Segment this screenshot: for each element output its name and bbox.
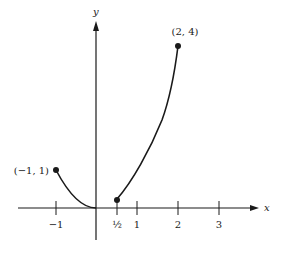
tick-label: ½: [112, 219, 122, 230]
annotation-right-point: (2, 4): [172, 26, 199, 37]
y-axis-arrow-icon: [93, 21, 99, 31]
x-axis-arrow-icon: [250, 205, 259, 211]
tick-label: −1: [49, 219, 64, 230]
tick-label: 3: [216, 219, 222, 230]
y-axis-label: y: [92, 6, 99, 17]
point-half-endpoint: [114, 197, 120, 203]
curve-left-branch: [56, 170, 96, 208]
tick-label: 2: [175, 219, 181, 230]
plot: −1 ½ 1 2 3 x y (−1, 1) (2, 4): [0, 0, 281, 254]
curve-right-branch: [117, 46, 178, 199]
x-axis-label: x: [264, 202, 270, 213]
annotation-left-point: (−1, 1): [14, 165, 49, 176]
point-left-endpoint: [53, 167, 59, 173]
point-right-endpoint: [175, 43, 181, 49]
tick-label: 1: [134, 219, 140, 230]
